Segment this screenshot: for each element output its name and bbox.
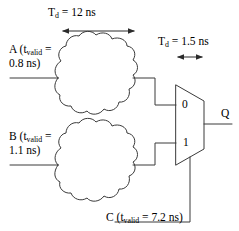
input-a-label: A (tvalid = 0.8 ns) [9, 43, 52, 70]
td-12ns-dimension-arrow [62, 28, 135, 34]
td-1p5ns-value: = 1.5 ns [169, 35, 209, 47]
cloud-top [55, 31, 138, 114]
td-1p5ns-dimension-arrow [177, 54, 203, 59]
wire-top-cloud-to-mux0 [133, 78, 176, 105]
select-c-subscript: valid [124, 216, 140, 225]
input-b-label-line2: 1.1 ns) [9, 144, 52, 157]
input-a-name: A (t [9, 43, 27, 55]
cloud-bottom [55, 118, 138, 201]
input-b-subscript: valid [27, 135, 43, 144]
td-12ns-label: Td = 12 ns [48, 6, 96, 20]
mux-input-1-label: 1 [183, 136, 189, 149]
mux-input-0-label: 0 [182, 98, 188, 111]
mux-body [176, 85, 204, 165]
input-a-eq: = [42, 43, 51, 55]
select-c-value: = 7.2 ns) [139, 211, 183, 223]
input-a-label-line1: A (tvalid = [9, 43, 52, 57]
input-a-subscript: valid [27, 48, 43, 57]
select-c-label: C (tvalid = 7.2 ns) [106, 211, 183, 225]
input-b-label-line1: B (tvalid = [9, 130, 52, 144]
input-b-label: B (tvalid = 1.1 ns) [9, 130, 52, 157]
input-b-name: B (t [9, 130, 27, 142]
td-1p5ns-label: Td = 1.5 ns [158, 35, 209, 49]
input-b-eq: = [42, 130, 51, 142]
td-12ns-value: = 12 ns [59, 6, 96, 18]
td-1p5ns-symbol: T [158, 35, 165, 47]
figure-canvas: Td = 12 ns Td = 1.5 ns A (tvalid = 0.8 n… [0, 0, 239, 231]
output-q-label: Q [221, 107, 229, 120]
wire-bottom-cloud-to-mux1 [133, 143, 176, 165]
input-a-label-line2: 0.8 ns) [9, 57, 52, 70]
select-c-name: C (t [106, 211, 124, 223]
td-12ns-symbol: T [48, 6, 55, 18]
